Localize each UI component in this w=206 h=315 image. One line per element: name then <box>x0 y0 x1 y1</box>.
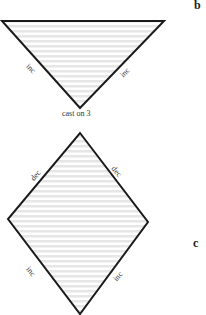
diamond-shape <box>8 133 148 314</box>
cast-on-label: cast on 3 <box>62 109 90 118</box>
figure-label-b: b <box>194 0 201 13</box>
figure-label-c: c <box>193 236 198 251</box>
